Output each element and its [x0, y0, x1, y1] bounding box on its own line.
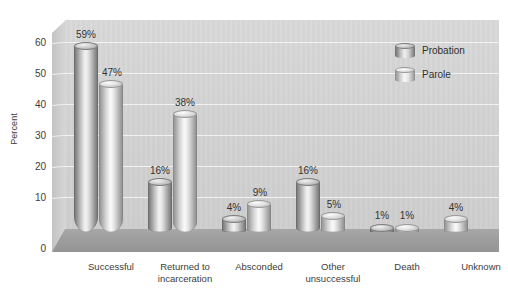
y-tick-40: 40	[22, 100, 46, 110]
bar-top-cap	[247, 200, 271, 208]
bar-top-cap	[173, 110, 197, 118]
gridline-20	[65, 166, 499, 167]
bar-top-cap	[222, 215, 246, 223]
legend-label-parole: Parole	[422, 69, 451, 80]
bar-other-parole	[321, 216, 345, 232]
bar-label-successful-probation: 59%	[66, 29, 106, 40]
bar-body	[173, 114, 197, 232]
bar-label-unknown-parole: 4%	[436, 202, 476, 213]
bar-chart: 59% 47% 16% 38% 4% 9%	[0, 0, 508, 298]
bar-top-cap	[296, 178, 320, 186]
chart-legend: Probation Parole	[395, 41, 495, 89]
bar-body	[99, 84, 123, 232]
bar-unknown-parole	[444, 219, 468, 232]
gridline-40	[65, 104, 499, 105]
legend-item-parole: Parole	[395, 65, 495, 85]
bar-top-cap	[321, 212, 345, 220]
gridline-10	[65, 197, 499, 198]
bar-successful-parole	[99, 84, 123, 232]
bar-label-other-probation: 16%	[288, 165, 328, 176]
y-tick-50: 50	[22, 69, 46, 79]
bar-label-other-parole: 5%	[314, 199, 354, 210]
bar-body	[148, 182, 172, 232]
bar-label-returned-parole: 38%	[165, 97, 205, 108]
y-tick-0: 0	[22, 244, 46, 254]
bar-top-cap	[74, 42, 98, 50]
legend-label-probation: Probation	[422, 45, 465, 56]
x-tick-returned-line2: incarceration	[140, 273, 230, 285]
bar-top-cap	[99, 80, 123, 88]
bar-top-cap	[148, 178, 172, 186]
bar-label-absconded-parole: 9%	[240, 187, 280, 198]
legend-swatch-cap	[395, 67, 415, 73]
y-tick-30: 30	[22, 131, 46, 141]
legend-swatch-cap	[395, 43, 415, 49]
bar-top-cap	[395, 224, 419, 232]
legend-swatch-probation-icon	[395, 44, 415, 58]
y-axis-title: Percent	[9, 99, 19, 159]
y-tick-10: 10	[22, 193, 46, 203]
chart-floor	[52, 229, 499, 252]
bar-label-successful-parole: 47%	[92, 67, 132, 78]
y-tick-60: 60	[22, 38, 46, 48]
legend-swatch-parole-icon	[395, 68, 415, 82]
y-axis: 60 50 40 30 20 10 0	[18, 0, 46, 298]
bar-returned-parole	[173, 114, 197, 232]
bar-death-probation	[370, 228, 394, 232]
bar-returned-probation	[148, 182, 172, 232]
bar-top-cap	[444, 215, 468, 223]
x-tick-other-line2: unsuccessful	[288, 273, 378, 285]
x-tick-unknown: Unknown	[436, 261, 508, 273]
bar-body	[247, 204, 271, 232]
x-tick-unknown-line1: Unknown	[436, 261, 508, 273]
bar-top-cap	[370, 224, 394, 232]
bar-absconded-parole	[247, 204, 271, 232]
bar-death-parole	[395, 228, 419, 232]
gridline-30	[65, 135, 499, 136]
bar-label-death-parole: 1%	[387, 210, 427, 221]
y-tick-20: 20	[22, 162, 46, 172]
bar-absconded-probation	[222, 219, 246, 232]
legend-item-probation: Probation	[395, 41, 495, 61]
